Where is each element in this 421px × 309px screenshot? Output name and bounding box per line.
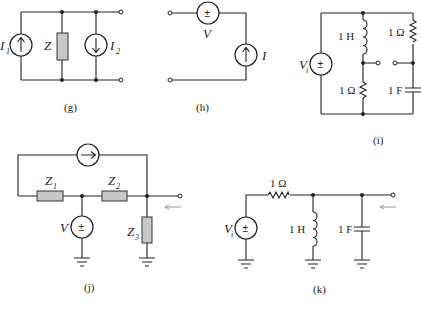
impedance-z bbox=[57, 33, 68, 60]
ground-icon bbox=[354, 260, 370, 268]
circuit-h: ± V I (h) bbox=[168, 2, 267, 114]
current-source-top bbox=[77, 144, 99, 166]
label-i: I bbox=[261, 48, 267, 63]
label-v: V bbox=[203, 26, 213, 41]
caption-i: (i) bbox=[373, 134, 384, 147]
plus-minus-icon: ± bbox=[79, 222, 85, 233]
label-z2-sub: 2 bbox=[116, 182, 120, 191]
caption-g: (g) bbox=[64, 101, 77, 114]
current-source-i bbox=[235, 44, 257, 66]
node bbox=[361, 61, 365, 65]
ground-icon bbox=[305, 260, 321, 268]
caption-h: (h) bbox=[196, 101, 209, 114]
node bbox=[94, 10, 98, 14]
node bbox=[60, 10, 64, 14]
label-c1: 1 F bbox=[388, 84, 402, 96]
plus-minus-icon: ± bbox=[243, 223, 249, 234]
node bbox=[145, 194, 149, 198]
voltage-source-v: ± bbox=[197, 2, 219, 24]
label-r1: 1 Ω bbox=[388, 26, 404, 38]
ground-icon bbox=[238, 260, 254, 268]
plus-minus-icon: ± bbox=[318, 59, 324, 70]
inductor-1h bbox=[363, 20, 367, 54]
current-source-i2 bbox=[85, 34, 107, 56]
voltage-source-vi: ± bbox=[235, 217, 257, 239]
label-z1-sub: 1 bbox=[53, 182, 57, 191]
node bbox=[80, 194, 84, 198]
current-source-i1 bbox=[10, 34, 32, 56]
label-l1: 1 H bbox=[338, 30, 354, 42]
caption-j: (j) bbox=[84, 281, 95, 294]
ground-icon bbox=[139, 258, 155, 266]
terminal bbox=[168, 78, 172, 82]
node bbox=[60, 78, 64, 82]
label-r1: 1 Ω bbox=[270, 177, 286, 189]
circuit-figure: I 1 Z I 2 (g) ± V I (h bbox=[0, 0, 421, 309]
circuit-g: I 1 Z I 2 (g) bbox=[0, 10, 123, 114]
label-z3: Z bbox=[127, 224, 135, 239]
arrow-left-icon bbox=[165, 205, 181, 209]
label-z: Z bbox=[44, 38, 52, 53]
node bbox=[360, 193, 364, 197]
plus-minus-icon: ± bbox=[205, 8, 211, 19]
terminal bbox=[391, 193, 395, 197]
impedance-z1 bbox=[37, 191, 63, 201]
ground-icon bbox=[74, 258, 90, 266]
node bbox=[411, 61, 415, 65]
terminal bbox=[393, 61, 397, 65]
resistor-1ohm bbox=[268, 192, 289, 198]
capacitor-1f bbox=[405, 88, 421, 92]
inductor-1h bbox=[313, 212, 317, 246]
circuit-j: Z 1 Z 2 ± V Z 3 (j) bbox=[18, 144, 182, 294]
node bbox=[361, 11, 365, 15]
node bbox=[361, 112, 365, 116]
label-z3-sub: 3 bbox=[134, 233, 139, 242]
resistor-1ohm-upper bbox=[410, 20, 416, 42]
terminal bbox=[119, 10, 123, 14]
caption-k: (k) bbox=[313, 283, 326, 296]
impedance-z2 bbox=[102, 191, 127, 201]
impedance-z3 bbox=[142, 217, 152, 243]
top-wire bbox=[246, 195, 391, 217]
terminal bbox=[178, 194, 182, 198]
label-v: V bbox=[60, 220, 70, 235]
node bbox=[311, 193, 315, 197]
label-i1: I bbox=[0, 38, 5, 53]
label-i2-sub: 2 bbox=[116, 47, 120, 56]
capacitor-1f bbox=[354, 227, 370, 231]
circuit-k: 1 Ω ± V i 1 H 1 F (k) bbox=[224, 177, 396, 296]
circuit-i: ± V i 1 H 1 Ω 1 Ω 1 F (i) bbox=[299, 11, 421, 147]
label-i2: I bbox=[109, 38, 115, 53]
resistor-1ohm-lower bbox=[360, 82, 366, 98]
label-z1: Z bbox=[45, 173, 53, 188]
voltage-source-vi: ± bbox=[310, 53, 332, 75]
label-i1-sub: 1 bbox=[6, 47, 10, 56]
node bbox=[94, 78, 98, 82]
voltage-source-v: ± bbox=[71, 216, 93, 238]
label-z2: Z bbox=[108, 173, 116, 188]
label-c1: 1 F bbox=[338, 223, 352, 235]
arrow-left-icon bbox=[380, 205, 396, 209]
terminal bbox=[168, 11, 172, 15]
terminal bbox=[376, 61, 380, 65]
label-l1: 1 H bbox=[289, 223, 305, 235]
label-r2: 1 Ω bbox=[339, 84, 355, 96]
terminal bbox=[119, 78, 123, 82]
label-vi-sub: i bbox=[231, 230, 233, 239]
label-vi-sub: i bbox=[306, 66, 308, 75]
